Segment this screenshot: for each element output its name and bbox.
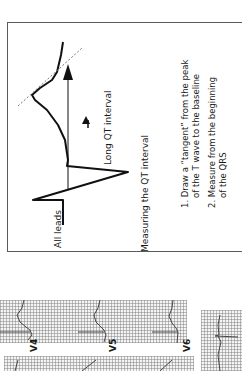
- step-1-line-2: of the T wave to the baseline: [191, 74, 201, 198]
- ecg-waveform: [32, 42, 128, 225]
- step-1-line-1: 1. Draw a “tangent” from the peak: [180, 60, 190, 208]
- step-2-line-1: 2. Measure from the beginning: [207, 77, 217, 208]
- ecg-strip-right: [201, 310, 242, 371]
- ecg-strip-v4-v6: [0, 300, 187, 343]
- qt-arrowhead-icon: [63, 64, 73, 80]
- lead-label: All leads: [53, 210, 63, 248]
- ecg-strip-lower: [4, 356, 194, 371]
- arrow-label: Long QT interval: [103, 91, 113, 165]
- figure-caption: Measuring the QT interval: [140, 135, 150, 252]
- tangent-line: [18, 48, 82, 106]
- pointer-arrowhead-icon: [82, 116, 90, 124]
- step-2-line-2: of the QRS: [218, 152, 228, 198]
